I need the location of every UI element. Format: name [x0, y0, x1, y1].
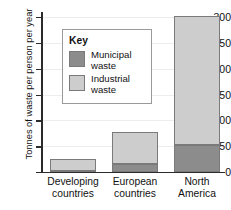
legend-swatch-municipal-icon — [69, 51, 85, 67]
bar-developing-countries — [50, 159, 96, 172]
x-label-line-2: America — [162, 188, 231, 200]
legend-item-municipal-waste: Municipal waste — [69, 50, 146, 71]
y-tick-0 — [36, 172, 41, 173]
legend-key-box: Key Municipal waste Industrial waste — [62, 29, 152, 104]
x-label-north-america: North America — [162, 176, 231, 200]
bar-segment-municipal-north-america — [174, 145, 220, 172]
legend-label-municipal-line-2: waste — [91, 61, 132, 72]
y-tick-300 — [36, 17, 41, 18]
legend-label-municipal-line-1: Municipal — [91, 50, 132, 61]
y-tick-100 — [36, 120, 41, 121]
y-tick-150 — [36, 95, 41, 96]
waste-bar-chart: Tonnes of waste per person per year 300 … — [0, 0, 231, 210]
y-tick-200 — [36, 69, 41, 70]
y-tick-50 — [36, 146, 41, 147]
y-axis-title: Tonnes of waste per person per year — [22, 4, 36, 164]
bar-segment-municipal-european — [112, 164, 158, 172]
y-axis-line — [41, 12, 43, 173]
legend-label-municipal: Municipal waste — [91, 50, 132, 71]
bar-segment-industrial-north-america — [174, 16, 220, 145]
legend-swatch-industrial-icon — [69, 75, 85, 91]
bar-segment-industrial-european — [112, 132, 158, 164]
legend-label-industrial: Industrial waste — [91, 74, 130, 95]
x-label-line-1: North — [162, 176, 231, 188]
legend-item-industrial-waste: Industrial waste — [69, 74, 146, 95]
bar-european-countries — [112, 132, 158, 172]
bar-segment-municipal-developing — [50, 170, 96, 172]
legend-label-industrial-line-2: waste — [91, 85, 130, 96]
y-tick-250 — [36, 43, 41, 44]
legend-title: Key — [69, 35, 146, 47]
bar-north-america — [174, 16, 220, 172]
